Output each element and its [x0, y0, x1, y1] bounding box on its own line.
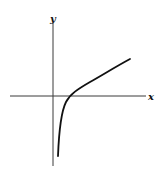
x-axis-label: x	[147, 91, 155, 102]
y-axis-label: y	[49, 13, 57, 24]
log-curve	[58, 59, 130, 156]
log-curve-chart: y x	[0, 0, 162, 169]
